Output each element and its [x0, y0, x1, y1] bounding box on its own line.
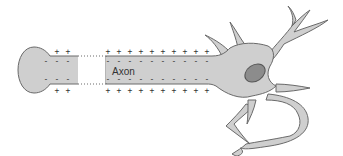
- svg-text:+: +: [117, 86, 122, 95]
- svg-text:-: -: [128, 57, 133, 66]
- neuron-diagram: + + - - - - - - + + + + + + + + + + + + …: [0, 0, 343, 156]
- svg-text:-: -: [139, 57, 144, 66]
- svg-text:-: -: [194, 57, 199, 66]
- svg-text:-: -: [205, 75, 210, 84]
- svg-text:+: +: [128, 86, 133, 95]
- svg-text:+: +: [55, 47, 60, 56]
- svg-text:-: -: [172, 75, 177, 84]
- svg-text:+: +: [106, 47, 111, 56]
- svg-text:+: +: [172, 86, 177, 95]
- svg-text:-: -: [150, 57, 155, 66]
- svg-text:-: -: [172, 57, 177, 66]
- svg-text:+: +: [205, 47, 210, 56]
- svg-text:-: -: [139, 75, 144, 84]
- svg-text:-: -: [161, 75, 166, 84]
- svg-text:-: -: [161, 57, 166, 66]
- svg-text:+: +: [150, 86, 155, 95]
- svg-text:-: -: [55, 75, 60, 84]
- svg-text:+: +: [172, 47, 177, 56]
- svg-text:-: -: [183, 57, 188, 66]
- svg-text:-: -: [150, 75, 155, 84]
- svg-text:+: +: [66, 86, 71, 95]
- svg-text:+: +: [106, 86, 111, 95]
- svg-text:+: +: [183, 47, 188, 56]
- svg-text:+: +: [194, 86, 199, 95]
- svg-text:-: -: [106, 75, 111, 84]
- svg-text:+: +: [139, 86, 144, 95]
- svg-text:-: -: [194, 75, 199, 84]
- svg-text:+: +: [139, 47, 144, 56]
- svg-text:-: -: [44, 57, 49, 66]
- svg-text:+: +: [194, 47, 199, 56]
- svg-text:+: +: [66, 47, 71, 56]
- svg-text:+: +: [150, 47, 155, 56]
- svg-text:-: -: [183, 75, 188, 84]
- axon-gap: [78, 56, 106, 84]
- svg-text:+: +: [161, 47, 166, 56]
- svg-text:-: -: [205, 57, 210, 66]
- svg-text:+: +: [55, 86, 60, 95]
- svg-text:-: -: [66, 57, 71, 66]
- svg-text:-: -: [66, 75, 71, 84]
- svg-text:+: +: [117, 47, 122, 56]
- svg-text:-: -: [117, 57, 122, 66]
- svg-text:+: +: [128, 47, 133, 56]
- axon-label: Axon: [112, 66, 135, 77]
- svg-text:+: +: [161, 86, 166, 95]
- svg-text:+: +: [183, 86, 188, 95]
- svg-text:-: -: [55, 57, 60, 66]
- svg-text:-: -: [44, 75, 49, 84]
- svg-text:+: +: [205, 86, 210, 95]
- svg-text:-: -: [106, 57, 111, 66]
